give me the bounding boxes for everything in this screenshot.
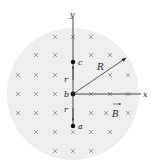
point-a-label: a <box>78 122 83 131</box>
point-c <box>71 60 75 64</box>
magnetic-field-diagram: y x R r r c b a B <box>0 0 156 165</box>
field-label: B <box>111 109 119 119</box>
point-b <box>71 92 76 97</box>
y-axis-label: y <box>69 10 75 19</box>
point-a <box>71 124 75 128</box>
point-c-label: c <box>78 58 83 67</box>
point-b-label: b <box>64 90 69 99</box>
x-axis-label: x <box>143 90 148 99</box>
radius-label: R <box>96 62 104 72</box>
